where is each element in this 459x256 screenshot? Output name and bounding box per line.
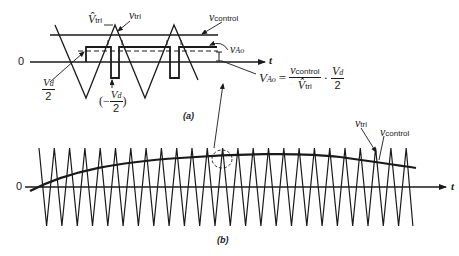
leader-v-tri <box>118 21 130 31</box>
panel-a <box>30 21 265 98</box>
panel-b-v-control-label: vcontrol <box>380 126 409 138</box>
panel-b-caption: (b) <box>217 236 229 245</box>
leader-equation <box>222 61 256 74</box>
v-tri-label: vtri <box>129 9 141 21</box>
panel-b-v-tri-label: vtri <box>355 117 367 129</box>
equation-lhs: VAo <box>259 70 276 86</box>
equation-fraction-control-over-vtri: vcontrol V̂tri <box>289 64 320 91</box>
equation-equals: = <box>279 70 286 86</box>
v-Ao-equation: VAo = vcontrol V̂tri · Vd 2 <box>259 64 344 91</box>
panel-b <box>25 128 446 226</box>
equation-dot: · <box>324 70 328 86</box>
panel-b-origin-label: 0 <box>16 181 22 192</box>
leader-b-v-tri <box>361 128 376 152</box>
v-tri-peak-label: V̂tri <box>88 13 102 25</box>
leader-b-v-control <box>379 136 384 160</box>
zoom-pointer-arrow <box>214 84 223 148</box>
neg-vd-half-label: (− Vd 2 ) <box>99 89 127 114</box>
panel-b-axis-label: t <box>451 181 454 192</box>
v-control-label: vcontrol <box>209 11 238 23</box>
panel-a-origin-label: 0 <box>18 56 24 67</box>
panel-a-caption: (a) <box>183 112 194 121</box>
v-Ao-label: vAo <box>230 43 244 55</box>
vd-half-label: Vd 2 <box>42 77 55 102</box>
leader-vd-half <box>50 52 84 82</box>
equation-fraction-vd-over-2: Vd 2 <box>331 65 344 91</box>
